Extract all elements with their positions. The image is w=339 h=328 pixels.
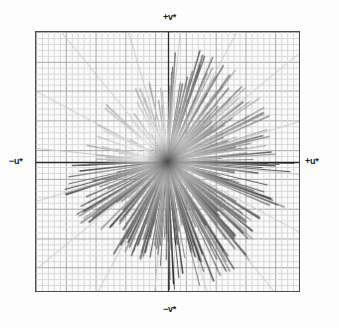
figure-container: +v* −v* −u* +u* <box>0 0 339 328</box>
plot-area <box>35 31 300 292</box>
polar-vector-plot-canvas <box>36 32 299 291</box>
axis-label-positive-v: +v* <box>0 13 339 22</box>
axis-label-positive-u: +u* <box>305 157 319 166</box>
axis-label-negative-u: −u* <box>9 157 23 166</box>
axis-label-negative-v: −v* <box>0 305 339 314</box>
